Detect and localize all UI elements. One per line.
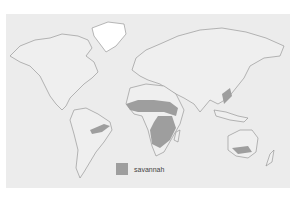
- australia: [228, 130, 258, 158]
- indonesia: [214, 110, 248, 122]
- map-legend: savannah: [116, 163, 164, 175]
- legend-label-savannah: savannah: [134, 166, 164, 173]
- north-america: [10, 34, 98, 110]
- greenland: [92, 22, 126, 52]
- south-america: [70, 108, 112, 178]
- legend-swatch-savannah: [116, 163, 128, 175]
- new-zealand: [266, 150, 274, 166]
